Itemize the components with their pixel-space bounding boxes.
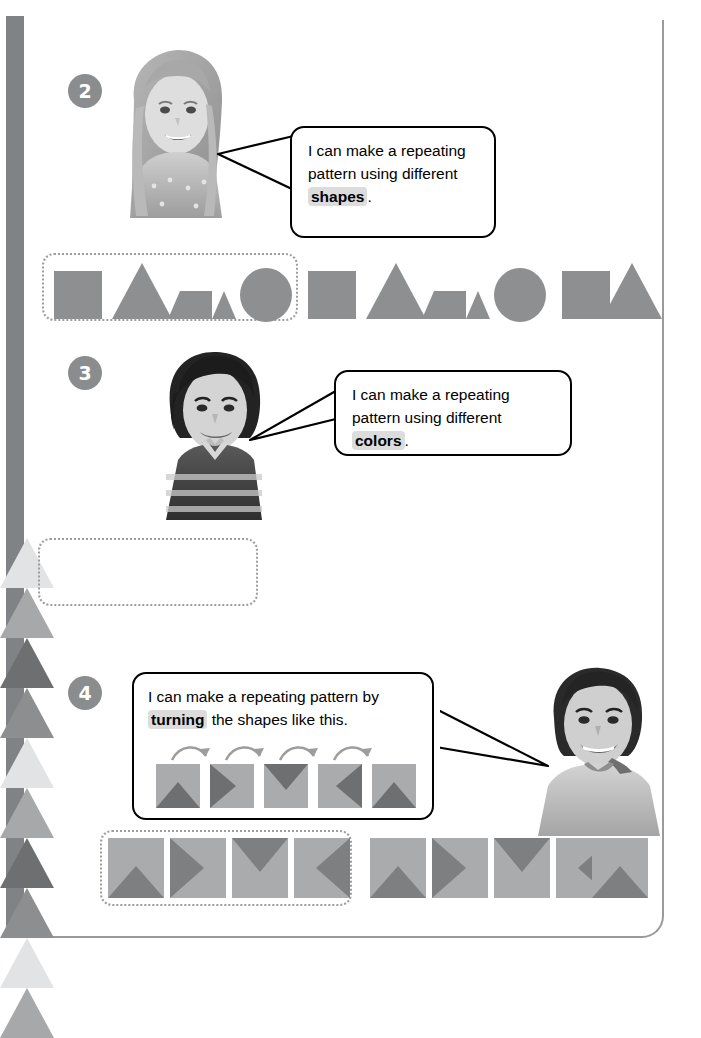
- boy-dark-hair-striped-shirt-photo: [156, 348, 274, 520]
- speech-bubble-3: I can make a repeating pattern using dif…: [334, 370, 572, 456]
- section-number-badge-2: 2: [68, 74, 102, 108]
- pattern-row-shapes: [0, 253, 701, 325]
- turning-example-tile: [210, 764, 254, 808]
- bubble-text-2-after: .: [367, 188, 371, 205]
- turning-example-tile: [156, 764, 200, 808]
- pattern-shape-triangle: [366, 263, 426, 319]
- turning-tile-down: [494, 838, 550, 898]
- bubble-text-4-after: the shapes like this.: [207, 711, 347, 728]
- bubble-text-3-before: I can make a repeating pattern using dif…: [352, 386, 510, 426]
- core-unit-outline-colors: [38, 538, 258, 606]
- pattern-shape-trapezoid-body: [180, 291, 212, 319]
- turning-example-tile: [318, 764, 362, 808]
- boy-short-hair-photo: [524, 658, 664, 836]
- turning-tile-right: [170, 838, 226, 898]
- turning-example-tile: [264, 764, 308, 808]
- pattern-shape-circle: [494, 268, 546, 322]
- section-number-badge-4: 4: [68, 676, 102, 710]
- turning-tile-up: [592, 838, 648, 898]
- bubble-text-4-before: I can make a repeating pattern by: [148, 688, 379, 705]
- bubble-highlight-3: colors: [352, 431, 405, 450]
- section-2: 2: [0, 28, 701, 323]
- turning-example-diagram: [150, 734, 422, 810]
- bubble-highlight-4: turning: [148, 710, 207, 729]
- speech-bubble-4: I can make a repeating pattern by turnin…: [132, 672, 434, 820]
- pattern-shape-trapezoid-body: [434, 291, 466, 319]
- section-4: 4: [0, 650, 701, 940]
- pattern-shape-square: [308, 271, 356, 319]
- turning-tile-right: [432, 838, 488, 898]
- bubble-highlight-2: shapes: [308, 187, 367, 206]
- pattern-shape-triangle: [602, 263, 662, 319]
- turning-tile-up: [108, 838, 164, 898]
- bubble-text-2-before: I can make a repeating pattern using dif…: [308, 142, 466, 182]
- turning-example-tile: [372, 764, 416, 808]
- bubble-text-3-after: .: [405, 432, 409, 449]
- pattern-shape-circle: [240, 268, 292, 322]
- pattern-color-triangle: [0, 988, 54, 1038]
- pattern-row-turning: [0, 830, 701, 910]
- pattern-shape-triangle: [112, 263, 172, 319]
- turning-tile-left: [294, 838, 350, 898]
- turning-tile-down: [232, 838, 288, 898]
- speech-bubble-2: I can make a repeating pattern using dif…: [290, 126, 496, 238]
- pattern-row-colors: [0, 538, 701, 610]
- girl-smiling-photo: [112, 48, 242, 218]
- turning-tile-up: [370, 838, 426, 898]
- pattern-color-triangle: [0, 938, 54, 988]
- section-3: 3: [0, 330, 701, 630]
- section-number-badge-3: 3: [68, 356, 102, 390]
- pattern-shape-square: [54, 271, 102, 319]
